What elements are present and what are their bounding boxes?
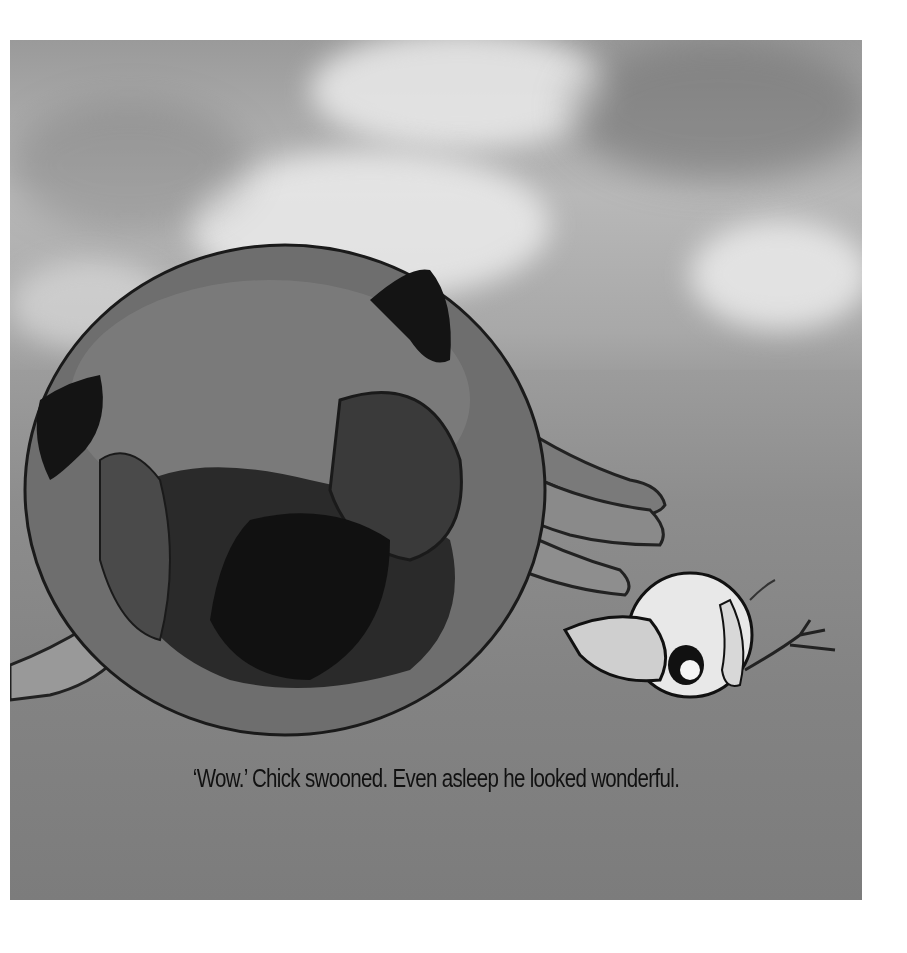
story-caption: ‘Wow.’ Chick swooned. Even asleep he loo… bbox=[87, 764, 786, 793]
pig-body bbox=[25, 245, 545, 735]
book-page-illustration: ‘Wow.’ Chick swooned. Even asleep he loo… bbox=[10, 40, 862, 900]
